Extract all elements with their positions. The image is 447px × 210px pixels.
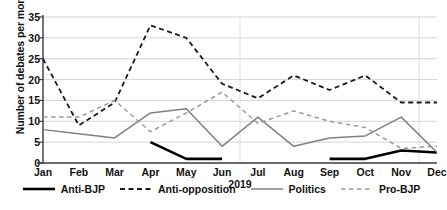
x-tick-label-feb: Feb	[69, 166, 88, 178]
legend-label: Politics	[289, 183, 326, 195]
chart-legend: Anti-BJPAnti-oppositionPoliticsPro-BJP	[0, 183, 442, 195]
legend-swatch-dashed	[119, 185, 153, 193]
legend-label: Anti-BJP	[61, 183, 105, 195]
legend-item-politics[interactable]: Politics	[250, 183, 326, 195]
x-tick-label-apr: Apr	[141, 166, 159, 178]
legend-label: Pro-BJP	[379, 183, 420, 195]
x-tick-label-oct: Oct	[357, 166, 375, 178]
legend-swatch-solid	[22, 185, 56, 193]
legend-item-anti-bjp[interactable]: Anti-BJP	[22, 183, 105, 195]
x-tick-label-jun: Jun	[213, 166, 232, 178]
legend-item-anti-opposition[interactable]: Anti-opposition	[119, 183, 236, 195]
x-tick-label-mar: Mar	[105, 166, 124, 178]
x-tick-label-aug: Aug	[284, 166, 304, 178]
x-tick-label-may: May	[176, 166, 196, 178]
legend-swatch-solid	[250, 185, 284, 193]
legend-item-pro-bjp[interactable]: Pro-BJP	[340, 183, 420, 195]
x-tick-label-sep: Sep	[320, 166, 339, 178]
x-tick-label-jan: Jan	[34, 166, 52, 178]
x-tick-label-dec: Dec	[427, 166, 446, 178]
x-tick-label-nov: Nov	[391, 166, 411, 178]
legend-swatch-dashed	[340, 185, 374, 193]
legend-label: Anti-opposition	[158, 183, 236, 195]
x-tick-label-jul: Jul	[250, 166, 265, 178]
